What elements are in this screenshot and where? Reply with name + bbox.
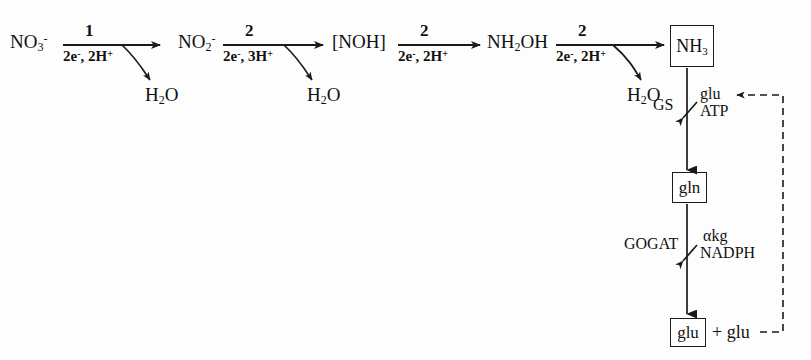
glu-feedback-dashed-arrow xyxy=(737,95,783,332)
hydroxylamine-subscript: 2 xyxy=(514,40,520,54)
gogat-substrate-tick xyxy=(683,245,697,261)
enzyme-gs: GS xyxy=(653,97,673,113)
step-3-number: 2 xyxy=(420,22,429,39)
cofactor-nadph: NADPH xyxy=(700,245,755,261)
boxed-metabolite-glu: glu xyxy=(670,318,706,347)
step-4-number: 2 xyxy=(578,22,587,39)
feedback-glu-label: + glu xyxy=(712,323,750,341)
step-3-cofactors: 2e-, 2H+ xyxy=(398,49,448,64)
cofactor-atp: ATP xyxy=(700,103,728,119)
boxed-metabolite-gln: gln xyxy=(672,172,707,203)
species-nitrite: NO2- xyxy=(178,32,215,53)
species-hydroxylamine-text: NH2OH xyxy=(487,31,548,52)
byproduct-water-1: H2O xyxy=(145,85,178,106)
water-branch-arrow-2 xyxy=(284,45,312,80)
pathway-diagram: NO3- NO2- [NOH] NH2OH NH3 gln glu 1 2e-,… xyxy=(0,0,811,360)
species-nitrate: NO3- xyxy=(10,32,47,53)
species-nitroxyl: [NOH] xyxy=(332,32,386,51)
nitrate-charge: - xyxy=(43,32,47,46)
enzyme-gogat: GOGAT xyxy=(624,236,678,252)
gln-text: gln xyxy=(679,178,701,198)
cofactor-glu: glu xyxy=(700,86,720,102)
glu-text: glu xyxy=(677,323,699,343)
byproduct-water-2: H2O xyxy=(307,85,340,106)
step-1-number: 1 xyxy=(85,22,94,39)
species-hydroxylamine: NH2OH xyxy=(487,32,548,53)
step-2-number: 2 xyxy=(245,22,254,39)
cofactor-akg: αkg xyxy=(703,228,727,244)
water-branch-arrow-3 xyxy=(613,45,641,80)
ammonia-subscript: 3 xyxy=(702,44,708,56)
nitrite-charge: - xyxy=(211,32,215,46)
boxed-metabolite-ammonia: NH3 xyxy=(670,25,714,67)
step-2-cofactors: 2e-, 3H+ xyxy=(223,49,273,64)
gs-substrate-tick xyxy=(683,102,697,118)
step-4-cofactors: 2e-, 2H+ xyxy=(556,49,606,64)
ammonia-text: NH3 xyxy=(676,36,708,57)
step-1-cofactors: 2e-, 2H+ xyxy=(63,49,113,64)
water-branch-arrow-1 xyxy=(122,45,150,80)
species-nitrite-text: NO2- xyxy=(178,31,215,52)
species-nitrate-text: NO3- xyxy=(10,31,47,52)
